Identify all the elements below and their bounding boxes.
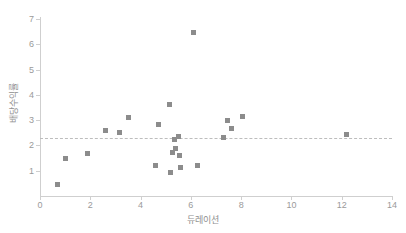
x-axis-label: 듀레이션 bbox=[0, 213, 406, 226]
data-point bbox=[195, 163, 200, 168]
x-tick-label: 8 bbox=[229, 201, 253, 210]
data-point bbox=[103, 128, 108, 133]
y-tick-label: 6 bbox=[4, 40, 34, 49]
data-point bbox=[85, 151, 90, 156]
data-point bbox=[221, 135, 226, 140]
data-point bbox=[229, 126, 234, 131]
x-tick-label: 4 bbox=[129, 201, 153, 210]
data-point bbox=[126, 115, 131, 120]
plot-area bbox=[40, 19, 392, 196]
data-point bbox=[167, 102, 172, 107]
y-tick-label: 7 bbox=[4, 15, 34, 24]
x-tick-label: 2 bbox=[78, 201, 102, 210]
data-point bbox=[177, 153, 182, 158]
x-tick-label: 12 bbox=[330, 201, 354, 210]
data-point bbox=[63, 156, 68, 161]
data-point bbox=[178, 165, 183, 170]
x-tick-label: 10 bbox=[279, 201, 303, 210]
data-point bbox=[191, 30, 196, 35]
data-point bbox=[153, 163, 158, 168]
data-point bbox=[173, 146, 178, 151]
data-point bbox=[156, 122, 161, 127]
x-tick-label: 14 bbox=[380, 201, 404, 210]
reference-line bbox=[40, 138, 392, 139]
data-point bbox=[344, 132, 349, 137]
scatter-chart: 1234567 02468101214 듀레이션 배당수익률 bbox=[0, 0, 406, 233]
data-point bbox=[117, 130, 122, 135]
x-tick-label: 6 bbox=[179, 201, 203, 210]
x-axis-line bbox=[40, 196, 393, 197]
data-point bbox=[55, 182, 60, 187]
y-tick-label: 1 bbox=[4, 167, 34, 176]
x-tick-label: 0 bbox=[28, 201, 52, 210]
data-point bbox=[240, 114, 245, 119]
data-point bbox=[176, 134, 181, 139]
y-axis-label: 배당수익률 bbox=[7, 58, 20, 148]
data-point bbox=[225, 118, 230, 123]
data-point bbox=[168, 170, 173, 175]
